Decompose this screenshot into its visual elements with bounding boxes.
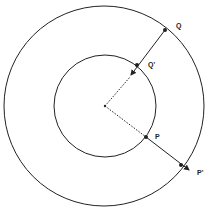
point-q-prime: [135, 63, 139, 67]
concentric-circles-diagram: Q Q' P P': [0, 0, 220, 214]
dotted-radius-to-q-image: [105, 77, 130, 106]
segment-q-to-qprime: [131, 30, 165, 75]
point-q: [163, 28, 167, 32]
label-p-prime: P': [197, 169, 204, 176]
point-p: [144, 135, 148, 139]
dotted-radius-to-p: [105, 106, 146, 137]
label-q: Q: [176, 22, 182, 30]
label-q-prime: Q': [148, 61, 155, 69]
point-p-prime: [179, 163, 183, 167]
label-p: P: [155, 133, 160, 140]
